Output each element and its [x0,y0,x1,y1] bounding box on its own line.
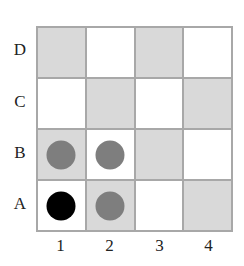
cell-a3 [135,180,184,231]
col-label-1: 1 [36,236,85,256]
cell-b3 [135,129,184,180]
cell-a2 [86,180,135,231]
cell-b2 [86,129,135,180]
cell-a4 [183,180,232,231]
cell-c3 [135,78,184,129]
cell-d4 [183,27,232,78]
cell-a1 [37,180,86,231]
gray-piece [47,140,76,169]
col-label-2: 2 [85,236,134,256]
row-label-d: D [10,40,30,60]
row-label-b: B [10,143,30,163]
gray-piece [96,191,125,220]
row-label-a: A [10,194,30,214]
cell-d2 [86,27,135,78]
col-label-3: 3 [135,236,184,256]
cell-d1 [37,27,86,78]
cell-c2 [86,78,135,129]
cell-c4 [183,78,232,129]
gray-piece [96,140,125,169]
row-label-c: C [10,92,30,112]
col-label-4: 4 [184,236,233,256]
black-piece [47,191,76,220]
cell-b1 [37,129,86,180]
cell-b4 [183,129,232,180]
board-grid [36,26,233,232]
cell-c1 [37,78,86,129]
cell-d3 [135,27,184,78]
